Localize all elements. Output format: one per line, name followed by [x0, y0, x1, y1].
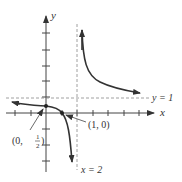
svg-text:): ): [41, 135, 44, 147]
point-y-intercept: [44, 104, 48, 108]
x-axis-label: x: [159, 106, 165, 118]
v-asymptote-label: x = 2: [80, 164, 102, 175]
x-axis: x: [6, 106, 165, 118]
h-asymptote-label: y = 1: [151, 92, 173, 103]
curve-right-branch: [82, 30, 140, 93]
y-intercept-label: (0, 1 2 ): [12, 133, 44, 150]
y-axis: y: [42, 9, 56, 172]
point-x-intercept: [60, 111, 64, 115]
y-axis-label: y: [50, 9, 56, 21]
svg-text:2: 2: [36, 142, 40, 150]
svg-text:1: 1: [36, 133, 40, 141]
svg-text:(0,: (0,: [12, 135, 23, 147]
x-intercept-label: (1, 0): [88, 119, 110, 131]
function-graph: x y y = 1 x = 2 (0, 1 2 ): [0, 0, 182, 182]
